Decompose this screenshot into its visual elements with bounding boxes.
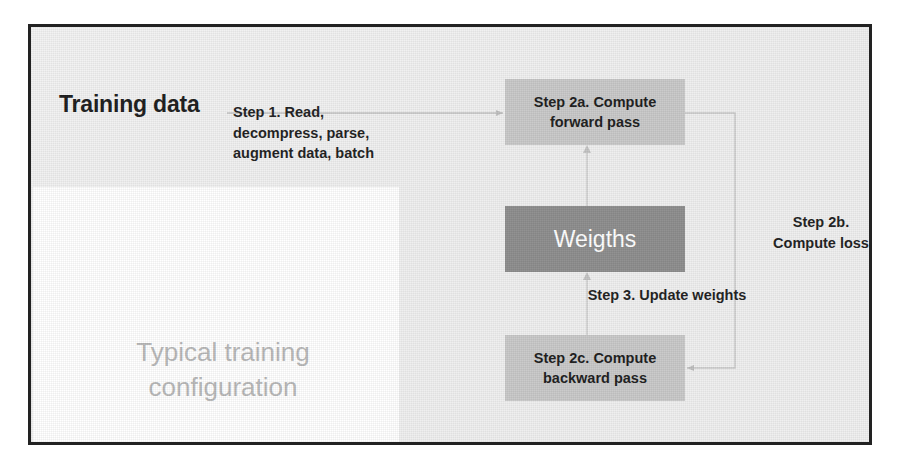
arrowhead-weights-to-forward: [583, 145, 591, 153]
slide-frame: Training data Step 1. Read, decompress, …: [28, 24, 872, 445]
training-data-heading: Training data: [59, 91, 200, 118]
step1-label: Step 1. Read, decompress, parse, augment…: [233, 102, 415, 164]
box-weights: Weigths: [505, 206, 685, 272]
box-backward-pass: Step 2c. Compute backward pass: [505, 335, 685, 401]
step2b-label: Step 2b. Compute loss: [766, 212, 872, 253]
connector-forward-to-backward: [685, 113, 735, 368]
arrowhead-step1-to-forward: [496, 110, 503, 116]
step3-label: Step 3. Update weights: [587, 285, 747, 306]
arrowhead-backward-to-weights: [583, 272, 591, 280]
typical-training-configuration-heading: Typical training configuration: [73, 335, 373, 405]
arrowhead-forward-to-backward: [687, 365, 694, 371]
box-forward-pass: Step 2a. Compute forward pass: [505, 79, 685, 145]
